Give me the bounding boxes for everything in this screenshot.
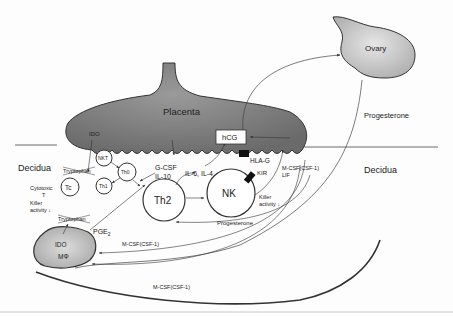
pge2-subscript: 2 — [108, 231, 111, 237]
gcsf-label: G-CSF — [155, 164, 177, 171]
cell-th0-label: Th0 — [121, 169, 130, 175]
hcg-box: hCG — [216, 130, 246, 144]
lif-label: LIF — [282, 172, 291, 178]
ovary-label: Ovary — [365, 44, 386, 53]
cytotoxic-t-label: T — [42, 192, 46, 198]
diagram-canvas: Placenta Ovary Progesterone Decidua Deci… — [0, 0, 453, 317]
cell-th0: Th0 — [118, 163, 136, 181]
hla-g-marker — [239, 150, 249, 157]
ovary: Ovary — [333, 17, 415, 78]
hla-g-label: HLA-G — [250, 157, 270, 164]
decidua-label-right: Decidua — [364, 165, 397, 175]
kir-label: KIR — [257, 170, 268, 176]
cell-tc: Tc — [61, 178, 79, 196]
killer-activity-right-label: activity ↓ — [259, 201, 280, 207]
pge2-label: PGE2 — [93, 228, 111, 237]
il6-il4-label: IL-6, IL-4 — [185, 170, 213, 177]
progesterone-nk-label: Progesterone — [217, 220, 254, 226]
macrophage: IDO MΦ — [34, 227, 96, 268]
killer-activity-left-label: activity ↓ — [30, 207, 51, 213]
cell-th1: Th1 — [96, 178, 112, 194]
pge2-text: PGE — [93, 228, 108, 235]
decidua-label-left: Decidua — [18, 163, 51, 173]
immune-interaction-diagram: Placenta Ovary Progesterone Decidua Deci… — [0, 0, 453, 317]
cytotoxic-label: Cytotoxic — [30, 185, 53, 191]
progesterone-ovary-label: Progesterone — [364, 111, 409, 120]
cell-th2-label: Th2 — [154, 195, 172, 206]
nkt-to-th0-arrow — [111, 162, 119, 168]
cell-nkt-label: NKT — [98, 155, 108, 161]
mcsf-lif-label: M-CSF(CSF-1) — [282, 165, 319, 171]
th0-to-th2-arrow — [133, 180, 140, 186]
gcsf-arrow — [140, 173, 155, 181]
cell-th1-label: Th1 — [99, 183, 108, 189]
placenta-label: Placenta — [163, 106, 201, 117]
placenta: Placenta — [66, 63, 307, 154]
th0-to-th1-arrow — [112, 178, 120, 183]
cell-tc-label: Tc — [65, 184, 72, 191]
mcsf-mid-label: M-CSF(CSF-1) — [122, 241, 159, 247]
cell-th2: Th2 — [143, 179, 185, 221]
ido-placenta-label: IDO — [89, 131, 100, 137]
killer-left-label: Killer — [30, 200, 42, 206]
mcsf-bottom-label: M-CSF(CSF-1) — [153, 284, 190, 290]
macrophage-label: MΦ — [58, 253, 69, 260]
cell-nk-label: NK — [222, 188, 236, 199]
killer-right-label: Killer — [259, 194, 271, 200]
macrophage-ido-label: IDO — [55, 241, 67, 248]
hcg-label: hCG — [222, 133, 238, 142]
cell-nkt: NKT — [96, 150, 112, 166]
